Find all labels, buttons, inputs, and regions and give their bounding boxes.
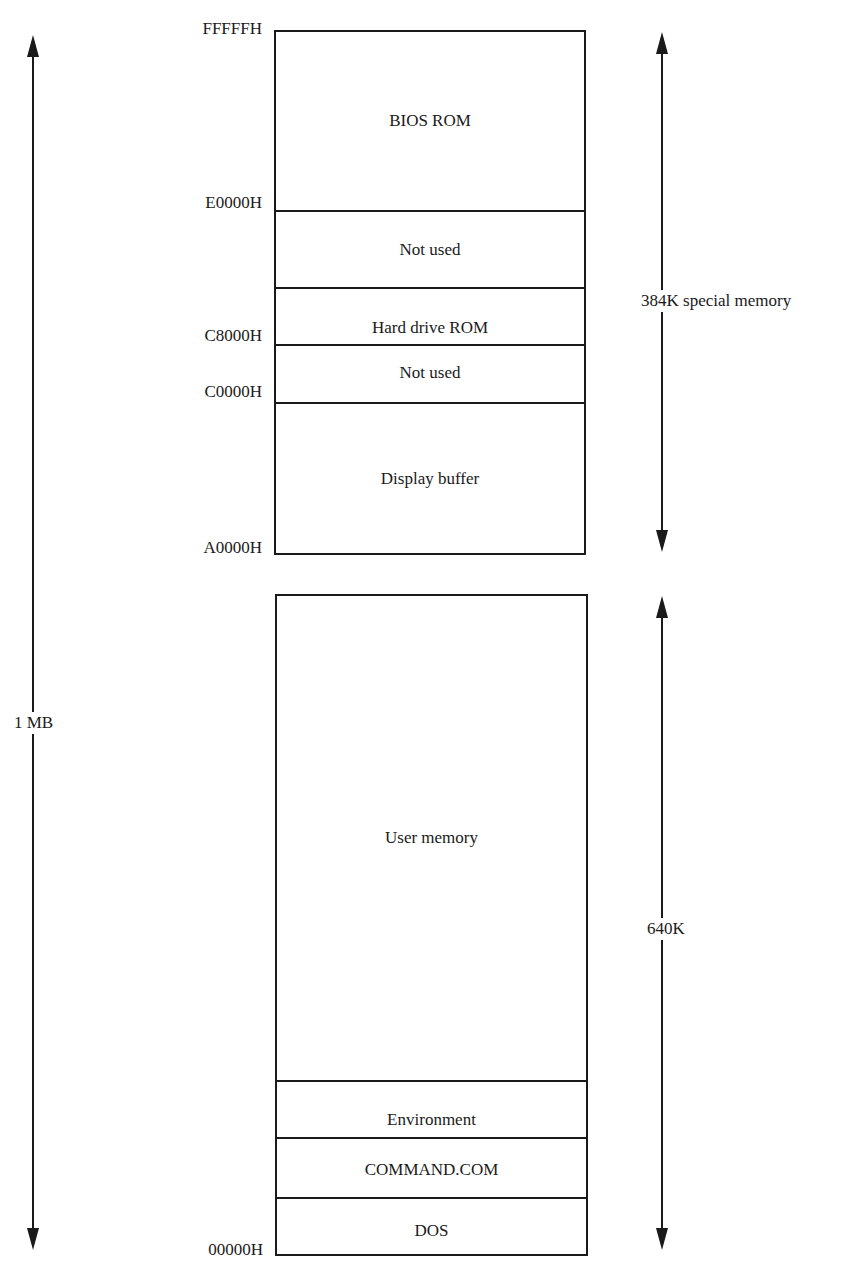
- region-bios-rom: BIOS ROM: [276, 32, 584, 210]
- region-not-used-lower: Not used: [276, 344, 584, 402]
- region-hard-drive-rom: Hard drive ROM: [276, 287, 584, 344]
- region-display-buffer: Display buffer: [276, 402, 584, 553]
- region-label: Not used: [400, 240, 461, 260]
- region-label: Environment: [387, 1110, 476, 1130]
- region-environment: Environment: [277, 1080, 586, 1137]
- address-label: C0000H: [162, 382, 262, 402]
- address-label: A0000H: [162, 538, 262, 558]
- address-label: C8000H: [162, 326, 262, 346]
- region-command-com: COMMAND.COM: [277, 1137, 586, 1197]
- region-dos: DOS: [277, 1197, 586, 1254]
- arrow-up-icon: [656, 32, 668, 54]
- region-label: Display buffer: [381, 469, 479, 489]
- conventional-memory-block: User memory Environment COMMAND.COM DOS: [275, 594, 588, 1256]
- dimension-line: [32, 55, 34, 1230]
- total-memory-label: 1 MB: [14, 712, 53, 734]
- region-not-used-upper: Not used: [276, 210, 584, 287]
- address-label: E0000H: [162, 193, 262, 213]
- region-user-memory: User memory: [277, 596, 586, 1080]
- arrow-down-icon: [27, 1228, 39, 1250]
- address-label: 00000H: [163, 1240, 263, 1260]
- special-memory-block: BIOS ROM Not used Hard drive ROM Not use…: [274, 30, 586, 555]
- address-label: FFFFFH: [162, 19, 262, 39]
- region-label: User memory: [385, 828, 478, 848]
- arrow-up-icon: [656, 596, 668, 618]
- conventional-memory-label: 640K: [647, 918, 685, 940]
- region-label: Not used: [400, 363, 461, 383]
- region-label: BIOS ROM: [389, 111, 471, 131]
- region-label: DOS: [414, 1221, 448, 1241]
- special-memory-label: 384K special memory: [641, 290, 791, 312]
- arrow-up-icon: [27, 35, 39, 57]
- arrow-down-icon: [656, 1228, 668, 1250]
- region-label: Hard drive ROM: [372, 318, 488, 338]
- arrow-down-icon: [656, 530, 668, 552]
- region-label: COMMAND.COM: [365, 1160, 499, 1180]
